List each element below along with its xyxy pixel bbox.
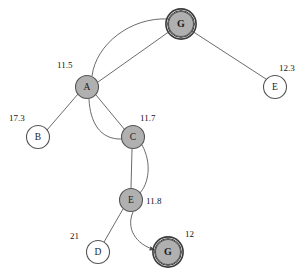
- node-cost-label: 21: [70, 231, 79, 241]
- graph-edge: [104, 209, 123, 242]
- node-cost-label: 11.8: [146, 196, 162, 206]
- graph-edge: [131, 212, 155, 250]
- graph-node[interactable]: C: [122, 126, 145, 149]
- graph-edge: [92, 19, 168, 76]
- node-label: D: [95, 247, 102, 257]
- graph-edge: [89, 99, 122, 139]
- graph-edge: [139, 145, 148, 194]
- node-cost-label: 12.3: [279, 63, 295, 73]
- goal-node[interactable]: G: [153, 237, 183, 267]
- node-label: A: [84, 82, 91, 92]
- cost-labels-layer: 11.512.317.311.711.82112: [9, 60, 295, 241]
- graph-edge: [192, 31, 266, 79]
- node-cost-label: 11.7: [140, 113, 156, 123]
- node-label: G: [164, 246, 172, 257]
- graph-node[interactable]: D: [87, 241, 110, 264]
- graph-edge: [131, 149, 132, 188]
- graph-edge: [96, 95, 125, 130]
- goal-node[interactable]: G: [166, 9, 196, 39]
- node-cost-label: 11.5: [57, 60, 73, 70]
- node-cost-label: 12: [185, 229, 194, 239]
- graph-node[interactable]: B: [27, 126, 50, 149]
- edges-layer: [47, 19, 266, 250]
- graph-edge: [98, 31, 170, 82]
- graph-node[interactable]: E: [120, 189, 143, 212]
- node-label: E: [272, 82, 278, 92]
- node-cost-label: 17.3: [9, 113, 25, 123]
- nodes-layer: GAEBCEDG: [27, 9, 287, 267]
- graph-canvas: GAEBCEDG 11.512.317.311.711.82112: [0, 0, 308, 277]
- node-label: C: [130, 132, 136, 142]
- graph-edge: [47, 94, 78, 130]
- graph-node[interactable]: E: [264, 76, 287, 99]
- graph-node[interactable]: A: [76, 76, 99, 99]
- graph-svg: GAEBCEDG 11.512.317.311.711.82112: [0, 0, 308, 277]
- node-label: B: [35, 132, 41, 142]
- node-label: E: [128, 195, 134, 205]
- node-label: G: [177, 18, 185, 29]
